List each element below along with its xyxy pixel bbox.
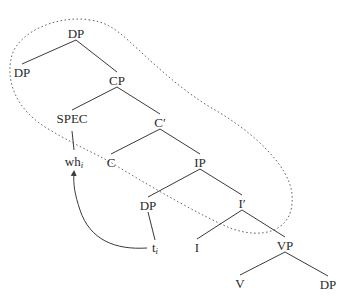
node-label: C <box>107 155 116 170</box>
node-label: I <box>195 240 199 255</box>
node-ip: IP <box>194 156 206 169</box>
node-dp-bottom: DP <box>320 278 337 291</box>
node-c-bar: C′ <box>154 116 166 129</box>
tree-edge <box>148 212 155 240</box>
node-v: V <box>235 277 244 290</box>
node-label: DP <box>68 26 85 41</box>
node-label: DP <box>14 65 31 80</box>
node-i-bar: I′ <box>238 197 245 210</box>
node-dp-mid: DP <box>140 199 157 212</box>
tree-edge <box>200 169 242 195</box>
node-spec: SPEC <box>56 112 87 125</box>
node-vp: VP <box>277 239 294 252</box>
node-label: DP <box>140 198 157 213</box>
syntax-tree-diagram: DP DP CP SPEC C′ whi C IP DP I′ ti I VP … <box>0 0 351 305</box>
node-dp-top: DP <box>68 27 85 40</box>
node-subscript: i <box>156 246 159 256</box>
node-label: V <box>235 276 244 291</box>
node-label: VP <box>277 238 294 253</box>
node-label: SPEC <box>56 111 87 126</box>
tree-edge <box>148 169 200 197</box>
node-label: I′ <box>238 196 245 211</box>
tree-edge <box>72 131 74 150</box>
tree-lines <box>0 0 351 305</box>
node-label: DP <box>320 277 337 292</box>
tree-edge <box>240 252 285 275</box>
tree-edge <box>22 40 76 64</box>
node-label: C′ <box>154 115 166 130</box>
tree-edge <box>197 210 242 239</box>
node-trace: ti <box>152 241 158 256</box>
node-label: IP <box>194 155 206 170</box>
tree-edge <box>76 40 117 72</box>
node-i: I <box>195 241 199 254</box>
tree-edge <box>72 87 117 110</box>
node-c: C <box>107 156 116 169</box>
tree-edge <box>285 252 328 276</box>
node-wh: whi <box>65 155 83 170</box>
node-label: wh <box>65 154 81 169</box>
node-subscript: i <box>81 160 84 170</box>
node-cp: CP <box>109 74 125 87</box>
node-dp-left: DP <box>14 66 31 79</box>
tree-edge <box>117 87 160 114</box>
tree-edge <box>160 129 200 154</box>
node-label: CP <box>109 73 125 88</box>
tree-edge <box>111 129 160 154</box>
movement-arrow <box>74 172 147 248</box>
